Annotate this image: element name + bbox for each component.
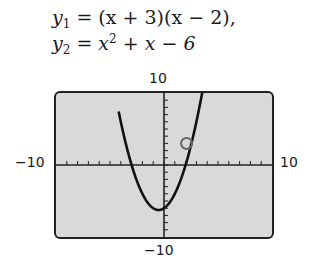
calculator-screen [54,91,274,239]
ymax-label: 10 [149,70,167,86]
equation-y2: y2 = x2 + x − 6 [52,28,196,61]
xmax-label: 10 [280,154,298,170]
xmin-label: −10 [15,154,45,170]
ymin-label: −10 [144,242,174,258]
graph-plot [56,93,272,237]
